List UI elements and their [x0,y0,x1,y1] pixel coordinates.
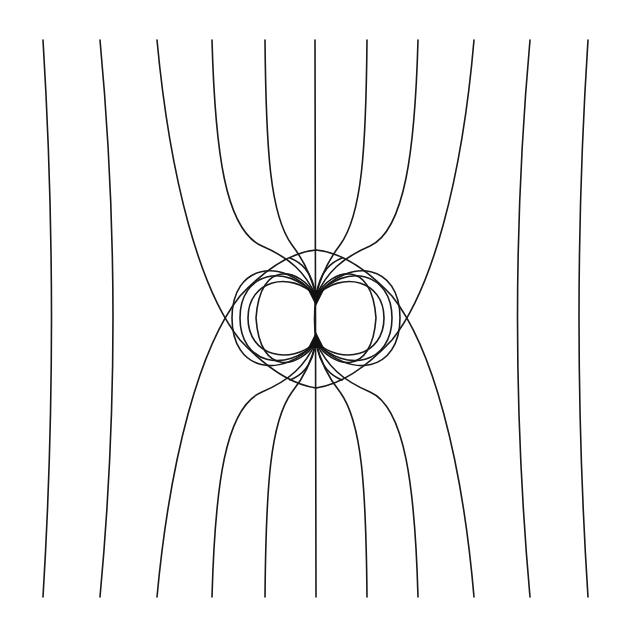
loop-left-2 [240,276,316,361]
loop-right-1 [316,282,384,355]
loop-left-1 [248,282,316,355]
field-line-2 [100,40,113,597]
separatrix-left-bottom [157,250,316,597]
loop-right-2 [316,276,392,361]
separatrix-left-top [157,40,316,388]
field-line-11 [579,40,588,597]
diagram-svg [0,0,633,635]
upper-pole-marker [308,290,324,306]
field-line-diagram [0,0,633,635]
field-line-10 [518,40,531,597]
field-line-1 [43,40,52,597]
lower-pole-marker [308,332,324,348]
